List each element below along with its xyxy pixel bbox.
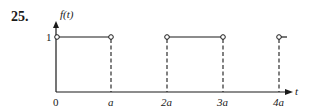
x-axis-label: t <box>295 85 299 97</box>
x-tick-2a: 2a <box>161 96 173 108</box>
open-circle-0 <box>55 35 60 40</box>
x-tick-a: a <box>108 96 114 108</box>
y-axis-label: f(t) <box>60 8 74 21</box>
square-wave-plot: f(t) t 1 0 a 2a 3a 4a <box>0 0 311 111</box>
y-axis-arrow-icon <box>53 21 59 28</box>
open-circle-4a <box>277 35 282 40</box>
open-circle-a <box>109 35 114 40</box>
open-circle-3a <box>221 35 226 40</box>
open-circle-2a <box>165 35 170 40</box>
y-tick-1: 1 <box>46 31 52 43</box>
x-tick-4a: 4a <box>273 96 285 108</box>
x-tick-0: 0 <box>53 96 59 108</box>
x-axis-arrow-icon <box>285 89 293 95</box>
x-tick-3a: 3a <box>216 96 229 108</box>
